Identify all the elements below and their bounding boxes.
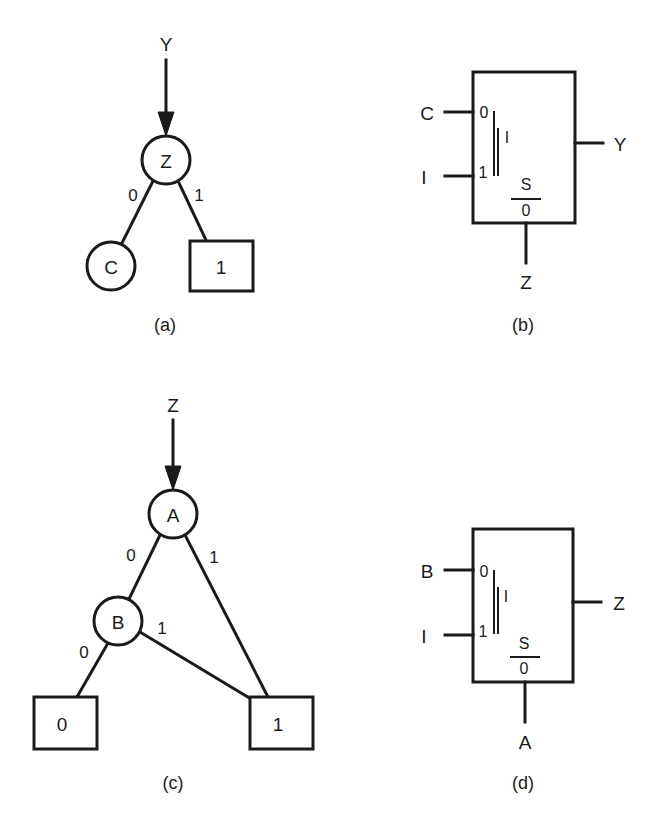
edge-label-b-1: 1	[157, 619, 166, 638]
terminal-1-label: 1	[216, 257, 227, 278]
input-label-z: Z	[167, 395, 179, 416]
node-c-label: C	[104, 257, 118, 278]
arrowhead-icon	[158, 112, 174, 136]
output-signal-z: Z	[613, 593, 625, 614]
output-signal-y: Y	[614, 134, 627, 155]
pin-1-label: 1	[479, 623, 488, 640]
caption-c: (c)	[163, 773, 184, 793]
select-signal-a: A	[519, 732, 532, 753]
figure: Y 0 1 Z C 1 (a) C 0 I 1 I S 0	[0, 0, 657, 831]
arrowhead-icon	[165, 466, 181, 490]
terminal-0-label: 0	[57, 714, 68, 735]
terminal-1-label: 1	[273, 714, 284, 735]
select-label-0: 0	[522, 202, 531, 219]
edge-label-0: 0	[128, 186, 137, 205]
panel-d-mux: B 0 I 1 I S 0 A Z (d)	[421, 529, 626, 793]
node-b-label: B	[112, 612, 125, 633]
select-signal-z: Z	[520, 272, 532, 293]
internal-mark: I	[505, 129, 509, 146]
caption-a: (a)	[154, 315, 176, 335]
internal-mark: I	[504, 588, 508, 605]
edge-label-b-0: 0	[79, 643, 88, 662]
input-signal-i: I	[421, 167, 426, 188]
input-signal-i: I	[421, 626, 426, 647]
pin-0-label: 0	[480, 104, 489, 121]
mux-body	[473, 72, 575, 223]
edge-a-to-1	[185, 535, 268, 697]
caption-d: (d)	[512, 773, 534, 793]
select-label-s: S	[519, 635, 530, 652]
edge-label-a-0: 0	[126, 546, 135, 565]
input-label-y: Y	[160, 34, 173, 55]
select-label-0: 0	[520, 660, 529, 677]
edge-label-a-1: 1	[209, 548, 218, 567]
node-z-label: Z	[160, 151, 172, 172]
panel-b-mux: C 0 I 1 I S 0 Z Y (b)	[420, 72, 627, 335]
input-signal-b: B	[421, 561, 434, 582]
pin-1-label: 1	[479, 164, 488, 181]
caption-b: (b)	[512, 315, 534, 335]
node-a-label: A	[167, 505, 180, 526]
pin-0-label: 0	[480, 563, 489, 580]
edge-b-to-1	[140, 632, 251, 699]
panel-c-bdd: Z 0 1 0 1 A B 0 1 (c)	[34, 395, 313, 794]
edge-label-1: 1	[194, 186, 203, 205]
select-label-s: S	[521, 176, 532, 193]
input-signal-c: C	[420, 103, 434, 124]
panel-a-bdd: Y 0 1 Z C 1 (a)	[87, 34, 253, 336]
